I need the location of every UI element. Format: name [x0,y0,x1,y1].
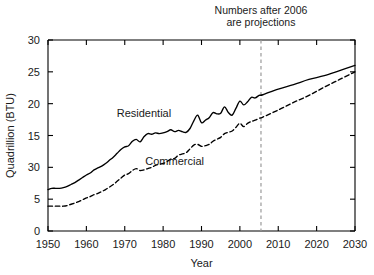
energy-consumption-chart: 302520153050 195019601970198019902000201… [0,0,374,275]
y-tick-label: 25 [28,66,40,78]
series-label-residential: Residential [117,107,171,119]
y-tick-label: 5 [34,193,40,205]
y-axis-ticks: 302520153050 [28,34,355,237]
x-axis-title: Year [190,257,213,269]
x-tick-label: 2010 [266,238,290,250]
y-tick-label: 30 [28,161,40,173]
series-line-commercial [48,72,355,206]
x-axis-ticks: 195019601970198019902000201020202030 [36,40,367,250]
x-tick-label: 2020 [304,238,328,250]
plot-frame [48,40,355,231]
projection-note-line2: are projections [227,16,296,28]
y-tick-label: 20 [28,98,40,110]
x-tick-label: 1960 [74,238,98,250]
y-axis-title: Quadrillion (BTU) [4,93,16,178]
series-line-residential [48,65,355,189]
projection-note-line1: Numbers after 2006 [215,4,308,16]
x-tick-label: 1950 [36,238,60,250]
x-tick-label: 1990 [189,238,213,250]
x-tick-label: 2030 [343,238,367,250]
x-tick-label: 1970 [113,238,137,250]
y-tick-label: 15 [28,130,40,142]
chart-canvas: 302520153050 195019601970198019902000201… [0,0,374,275]
series-label-commercial: Commercial [145,155,204,167]
y-tick-label: 30 [28,34,40,46]
series-group [48,65,355,206]
x-tick-label: 1980 [151,238,175,250]
x-tick-label: 2000 [228,238,252,250]
y-tick-label: 0 [34,225,40,237]
